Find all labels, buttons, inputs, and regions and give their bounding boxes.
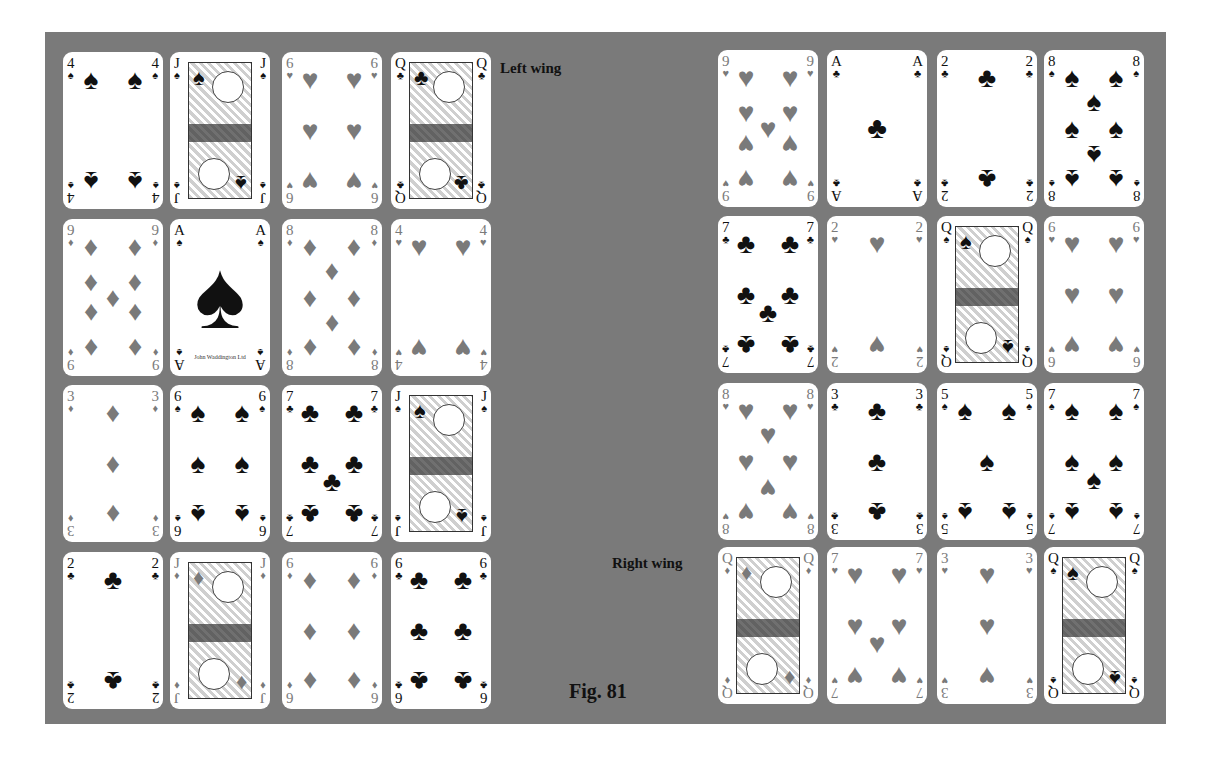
heart-icon: ♥ <box>722 178 729 189</box>
spade-icon: ♠ <box>942 511 948 522</box>
spade-pip-icon: ♠ <box>1065 115 1080 143</box>
spade-ace-icon: ♠ <box>195 248 246 344</box>
club-icon: ♣ <box>397 70 404 81</box>
heart-pip-icon: ♥ <box>782 397 799 425</box>
playing-card-7-of-clubs[interactable]: 7♣7♣7♣7♣♣♣♣♣♣♣♣ <box>282 385 382 542</box>
heart-pip-icon: ♥ <box>782 64 799 92</box>
card-index-corner: 8♥ <box>807 511 815 536</box>
card-rank: J <box>395 523 401 538</box>
playing-card-Q-of-spades[interactable]: Q♠Q♠Q♠Q♠♠♠ <box>937 216 1037 373</box>
heart-pip-icon: ♥ <box>979 662 996 690</box>
playing-card-J-of-spades[interactable]: J♠J♠J♠J♠♠♠ <box>391 385 491 542</box>
playing-card-5-of-spades[interactable]: 5♠5♠5♠5♠♠♠♠♠♠ <box>937 383 1037 540</box>
playing-card-6-of-hearts[interactable]: 6♥6♥6♥6♥♥♥♥♥♥♥ <box>1044 216 1144 373</box>
card-index-corner: 6♥ <box>371 180 379 205</box>
card-index-corner: 6♥ <box>1048 344 1056 369</box>
card-index-corner: 7♥ <box>916 675 924 700</box>
heart-icon: ♥ <box>807 178 814 189</box>
playing-card-7-of-clubs[interactable]: 7♣7♣7♣7♣♣♣♣♣♣♣♣ <box>718 216 818 373</box>
diamond-icon: ♦ <box>371 680 377 691</box>
playing-card-6-of-spades[interactable]: 6♠6♠6♠6♠♠♠♠♠♠♠ <box>170 385 270 542</box>
card-index-corner: Q♠ <box>1022 344 1033 369</box>
diamond-icon: ♦ <box>260 570 266 581</box>
card-index-corner: 3♥ <box>1026 675 1034 700</box>
playing-card-A-of-clubs[interactable]: A♣A♣A♣A♣♣ <box>827 50 927 207</box>
card-index-corner: 8♦ <box>371 347 379 372</box>
playing-card-2-of-hearts[interactable]: 2♥2♥2♥2♥♥♥ <box>827 216 927 373</box>
playing-card-9-of-diamonds[interactable]: 9♦9♦9♦9♦♦♦♦♦♦♦♦♦♦ <box>63 219 163 376</box>
card-rank: 6 <box>286 690 294 705</box>
club-icon: ♣ <box>941 68 948 79</box>
playing-card-Q-of-clubs[interactable]: Q♣Q♣Q♣Q♣♣♣ <box>391 52 491 209</box>
card-index-corner: J♠ <box>395 513 401 538</box>
card-index-corner: 8♥ <box>807 387 815 412</box>
spade-pip-icon: ♠ <box>1109 498 1124 526</box>
playing-card-8-of-diamonds[interactable]: 8♦8♦8♦8♦♦♦♦♦♦♦♦♦ <box>282 219 382 376</box>
playing-card-6-of-diamonds[interactable]: 6♦6♦6♦6♦♦♦♦♦♦♦ <box>282 552 382 709</box>
club-pip-icon: ♣ <box>781 331 799 359</box>
diamond-icon: ♦ <box>68 347 74 358</box>
card-index-corner: 2♥ <box>831 344 839 369</box>
playing-card-J-of-diamonds[interactable]: J♦J♦J♦J♦♦♦ <box>170 552 270 709</box>
playing-card-2-of-clubs[interactable]: 2♣2♣2♣2♣♣♣ <box>937 50 1037 207</box>
club-icon: ♣ <box>395 680 402 691</box>
heart-icon: ♥ <box>1026 565 1033 576</box>
heart-icon: ♥ <box>916 234 923 245</box>
card-index-corner: 7♣ <box>286 513 294 538</box>
card-index-corner: J♠ <box>481 513 487 538</box>
playing-card-7-of-spades[interactable]: 7♠7♠7♠7♠♠♠♠♠♠♠♠ <box>1044 383 1144 540</box>
card-layout-board: 4♠4♠4♠4♠♠♠♠♠J♠J♠J♠J♠♠♠6♥6♥6♥6♥♥♥♥♥♥♥Q♣Q♣… <box>45 32 1166 724</box>
heart-icon: ♥ <box>480 237 487 248</box>
heart-icon: ♥ <box>722 401 729 412</box>
playing-card-2-of-clubs[interactable]: 2♣2♣2♣2♣♣♣ <box>63 552 163 709</box>
playing-card-6-of-hearts[interactable]: 6♥6♥6♥6♥♥♥♥♥♥♥ <box>282 52 382 209</box>
card-rank: Q <box>722 685 733 700</box>
card-rank: 8 <box>807 521 815 536</box>
playing-card-Q-of-spades[interactable]: Q♠Q♠Q♠Q♠♠♠ <box>1044 547 1144 704</box>
playing-card-3-of-diamonds[interactable]: 3♦3♦3♦3♦♦♦♦ <box>63 385 163 542</box>
club-pip-icon: ♣ <box>759 299 777 327</box>
spade-icon: ♠ <box>177 237 183 248</box>
playing-card-7-of-hearts[interactable]: 7♥7♥7♥7♥♥♥♥♥♥♥♥ <box>827 547 927 704</box>
heart-pip-icon: ♥ <box>411 334 428 362</box>
diamond-icon: ♦ <box>152 513 158 524</box>
club-pip-icon: ♣ <box>410 617 428 645</box>
club-icon: ♣ <box>1026 68 1033 79</box>
card-index-corner: 6♥ <box>286 180 294 205</box>
card-rank: 4 <box>67 190 75 205</box>
heart-pip-icon: ♥ <box>455 334 472 362</box>
playing-card-8-of-hearts[interactable]: 8♥8♥8♥8♥♥♥♥♥♥♥♥♥ <box>718 383 818 540</box>
playing-card-3-of-hearts[interactable]: 3♥3♥3♥3♥♥♥♥ <box>937 547 1037 704</box>
playing-card-A-of-spades[interactable]: A♠A♠A♠A♠♠John Waddington Ltd <box>170 219 270 376</box>
diamond-icon: ♦ <box>236 670 247 696</box>
club-pip-icon: ♣ <box>410 667 428 695</box>
playing-card-4-of-hearts[interactable]: 4♥4♥4♥4♥♥♥♥♥ <box>391 219 491 376</box>
heart-pip-icon: ♥ <box>782 498 799 526</box>
card-index-corner: A♣ <box>912 178 923 203</box>
diamond-pip-icon: ♦ <box>128 299 142 327</box>
heart-pip-icon: ♥ <box>760 421 777 449</box>
heart-pip-icon: ♥ <box>782 130 799 158</box>
card-rank: 2 <box>941 188 949 203</box>
playing-card-9-of-hearts[interactable]: 9♥9♥9♥9♥♥♥♥♥♥♥♥♥♥ <box>718 50 818 207</box>
club-pip-icon: ♣ <box>737 230 755 258</box>
card-index-corner: 8♥ <box>722 511 730 536</box>
playing-card-J-of-spades[interactable]: J♠J♠J♠J♠♠♠ <box>170 52 270 209</box>
card-rank: 6 <box>395 690 403 705</box>
card-rank: J <box>260 190 266 205</box>
court-head-icon <box>212 71 244 103</box>
spade-icon: ♠ <box>193 65 205 91</box>
diamond-icon: ♦ <box>725 565 731 576</box>
playing-card-8-of-spades[interactable]: 8♠8♠8♠8♠♠♠♠♠♠♠♠♠ <box>1044 50 1144 207</box>
playing-card-Q-of-diamonds[interactable]: Q♦Q♦Q♦Q♦♦♦ <box>718 547 818 704</box>
heart-icon: ♥ <box>286 180 293 191</box>
club-pip-icon: ♣ <box>410 566 428 594</box>
heart-pip-icon: ♥ <box>1064 281 1081 309</box>
playing-card-3-of-clubs[interactable]: 3♣3♣3♣3♣♣♣♣ <box>827 383 927 540</box>
playing-card-4-of-spades[interactable]: 4♠4♠4♠4♠♠♠♠♠ <box>63 52 163 209</box>
diamond-pip-icon: ♦ <box>84 268 98 296</box>
heart-pip-icon: ♥ <box>411 233 428 261</box>
card-index-corner: 5♠ <box>941 511 949 536</box>
diamond-icon: ♦ <box>371 570 377 581</box>
playing-card-6-of-clubs[interactable]: 6♣6♣6♣6♣♣♣♣♣♣♣ <box>391 552 491 709</box>
